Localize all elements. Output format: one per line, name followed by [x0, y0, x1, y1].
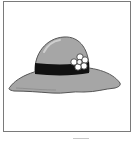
- caption-underline: [73, 138, 89, 139]
- hat-illustration: [4, 2, 130, 131]
- image-frame: [3, 1, 131, 132]
